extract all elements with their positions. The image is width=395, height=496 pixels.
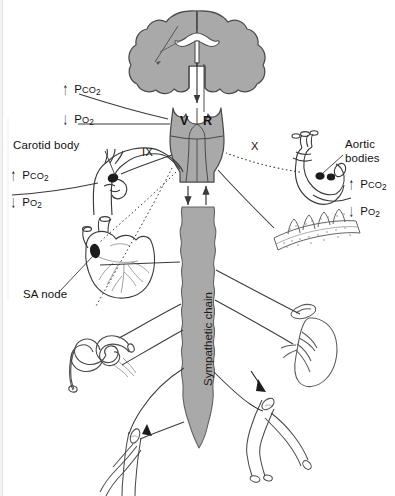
carotid-body-marker: [107, 172, 120, 184]
leader-sa-node: [60, 256, 93, 291]
aortic-chemoreceptor-po2: ↓ PO2: [348, 205, 380, 219]
diagram-canvas: [0, 0, 395, 496]
gas-label: PO2: [74, 113, 94, 125]
scan-edge-artifact: [0, 0, 8, 496]
pathway-carotid-chemical-input: [12, 183, 98, 195]
arrow-down-icon: ↓: [63, 110, 71, 127]
central-chemoreceptor-po2: ↓ PO2: [62, 113, 94, 127]
pathway-medulla-spinalcord: [188, 186, 206, 205]
aortic-chemoreceptor-pco2: ↑ PCO2: [348, 178, 387, 192]
pathway-chain-to-intestine-upper: [119, 304, 181, 338]
carotid-chemoreceptor-po2: ↓ PO2: [10, 196, 42, 210]
kidney: [281, 304, 337, 386]
aortic-body-marker-1: [315, 172, 324, 180]
gas-label: PCO2: [22, 169, 48, 181]
sa-node-marker: [89, 243, 102, 259]
arrow-down-icon: ↓: [349, 202, 357, 219]
arteriole-left-constriction-arrow: [142, 424, 152, 436]
vasomotor-center-label: V: [180, 114, 189, 128]
aortic-bodies-label-line1: Aortic: [345, 138, 375, 151]
carotid-bifurcation: [93, 148, 183, 215]
nerve-ix-label: IX: [142, 146, 153, 158]
arteriole-right: [247, 396, 313, 483]
nerve-x-label: X: [251, 140, 259, 152]
aortic-body-marker-2: [327, 174, 335, 181]
carotid-chemoreceptor-pco2: ↑ PCO2: [10, 169, 49, 183]
pathway-medulla-to-heart: [99, 172, 176, 243]
gas-label: PO2: [360, 205, 380, 217]
gas-label: PO2: [22, 196, 42, 208]
pathway-medulla-to-lung: [218, 170, 274, 228]
arrow-up-icon: ↑: [63, 80, 71, 97]
intestine: [68, 336, 136, 393]
sa-node-label: SA node: [23, 288, 67, 301]
pathway-brain-to-medulla: [197, 62, 204, 112]
arteriole-left: [100, 427, 142, 496]
gas-label: PCO2: [360, 178, 386, 190]
arrow-up-icon: ↑: [349, 175, 357, 192]
medulla: [170, 108, 224, 182]
arteriole-right-arrow-shaft: [251, 371, 261, 386]
pathway-chain-to-arteriole-left: [129, 368, 184, 434]
pathway-aortic-chemical-input: [313, 195, 351, 203]
aortic-arch: [292, 131, 348, 205]
heart: [83, 217, 155, 298]
pathway-medulla-to-intestine: [96, 168, 172, 306]
sympathetic-chain-label: Sympathetic chain: [202, 292, 214, 386]
anatomical-diagram: ↑ PCO2 ↓ PO2 Carotid body ↑ PCO2 ↓ PO2 A…: [0, 0, 395, 496]
arrow-down-icon: ↓: [11, 193, 19, 210]
pathway-aortic-bodies-x: [226, 153, 300, 172]
gas-label: PCO2: [74, 83, 100, 95]
respiratory-center-label: R: [203, 114, 212, 128]
carotid-body-label: Carotid body: [13, 139, 79, 152]
arrow-up-icon: ↑: [11, 166, 19, 183]
aortic-bodies-label-line2: bodies: [345, 152, 380, 165]
central-chemoreceptor-pco2: ↑ PCO2: [62, 83, 101, 97]
pathway-chain-to-intestine-lower: [122, 330, 183, 365]
pathway-chain-to-kidney: [215, 300, 293, 344]
